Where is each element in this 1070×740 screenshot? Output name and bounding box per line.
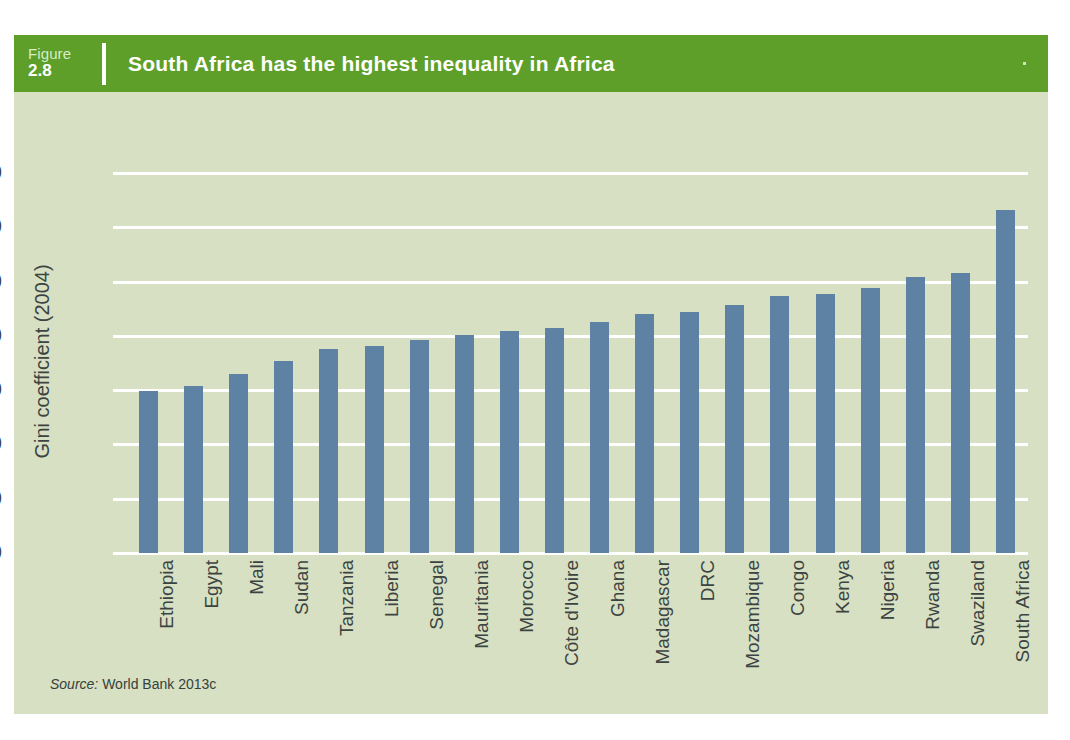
x-axis-label: Côte d'Ivoire — [561, 560, 583, 666]
chart-plot-wrapper: Gini coefficient (2004) 010203040506070 … — [14, 92, 1048, 714]
y-tick-mark-40 — [113, 335, 126, 338]
bar[interactable] — [274, 361, 293, 553]
x-axis-label: Egypt — [201, 560, 223, 609]
bar[interactable] — [455, 335, 474, 553]
bar[interactable] — [951, 273, 970, 553]
y-tick-mark-20 — [113, 443, 126, 446]
bar[interactable] — [139, 391, 158, 553]
figure-header: Figure 2.8 South Africa has the highest … — [14, 35, 1048, 92]
figure-number-word: Figure — [28, 46, 100, 62]
y-tick-mark-10 — [113, 498, 126, 501]
y-tick-mark-50 — [113, 281, 126, 284]
y-tick-label-0: 0 — [0, 540, 2, 564]
y-tick-mark-0 — [113, 552, 126, 555]
y-tick-mark-70 — [113, 172, 126, 175]
figure-number-value: 2.8 — [28, 62, 100, 80]
x-axis-label: Mauritania — [471, 560, 493, 649]
x-axis-label: Ethiopia — [156, 560, 178, 629]
x-axis-label: Nigeria — [877, 560, 899, 620]
y-tick-label-60: 60 — [0, 214, 2, 238]
x-axis-label: Mozambique — [742, 560, 764, 669]
x-axis-label: DRC — [697, 560, 719, 601]
x-axis-label: Madagascar — [652, 560, 674, 665]
bar[interactable] — [725, 305, 744, 553]
bar[interactable] — [365, 346, 384, 553]
bar[interactable] — [319, 349, 338, 553]
bar[interactable] — [184, 386, 203, 553]
y-axis-title: Gini coefficient (2004) — [31, 212, 54, 512]
header-divider — [102, 43, 106, 85]
figure-panel: Figure 2.8 South Africa has the highest … — [14, 35, 1048, 714]
bar[interactable] — [996, 210, 1015, 553]
x-axis-label: Tanzania — [336, 560, 358, 636]
x-axis-label: Senegal — [426, 560, 448, 630]
bar[interactable] — [906, 277, 925, 553]
bars-group — [126, 173, 1028, 553]
x-axis-label: Ghana — [607, 560, 629, 617]
y-tick-mark-60 — [113, 226, 126, 229]
plot-area: 010203040506070 — [126, 173, 1028, 553]
bar[interactable] — [545, 328, 564, 553]
bar[interactable] — [861, 288, 880, 553]
bar[interactable] — [816, 294, 835, 553]
figure-number-block: Figure 2.8 — [14, 46, 100, 81]
x-axis-label: Morocco — [516, 560, 538, 633]
bar[interactable] — [680, 312, 699, 553]
bar[interactable] — [770, 296, 789, 553]
y-tick-label-50: 50 — [0, 269, 2, 293]
figure-title: South Africa has the highest inequality … — [128, 52, 615, 76]
x-axis-label: Sudan — [291, 560, 313, 615]
y-tick-label-30: 30 — [0, 377, 2, 401]
header-marker-dot — [1023, 62, 1026, 65]
y-tick-mark-30 — [113, 389, 126, 392]
y-tick-label-40: 40 — [0, 323, 2, 347]
y-tick-label-10: 10 — [0, 486, 2, 510]
bar[interactable] — [410, 340, 429, 553]
x-axis-label: Liberia — [381, 560, 403, 617]
bar[interactable] — [500, 331, 519, 553]
x-axis-label: South Africa — [1012, 560, 1034, 662]
y-tick-label-70: 70 — [0, 160, 2, 184]
x-axis-label: Swaziland — [967, 560, 989, 647]
source-text: World Bank 2013c — [102, 676, 216, 692]
bar[interactable] — [229, 374, 248, 553]
bar[interactable] — [590, 322, 609, 553]
x-axis-label: Rwanda — [922, 560, 944, 630]
source-label: Source: — [50, 676, 98, 692]
x-axis-label: Kenya — [832, 560, 854, 614]
y-tick-label-20: 20 — [0, 431, 2, 455]
x-axis-labels-group: EthiopiaEgyptMaliSudanTanzaniaLiberiaSen… — [126, 560, 1028, 710]
bar[interactable] — [635, 314, 654, 553]
source-note: Source: World Bank 2013c — [50, 676, 216, 692]
x-axis-label: Mali — [246, 560, 268, 595]
x-axis-label: Congo — [787, 560, 809, 616]
